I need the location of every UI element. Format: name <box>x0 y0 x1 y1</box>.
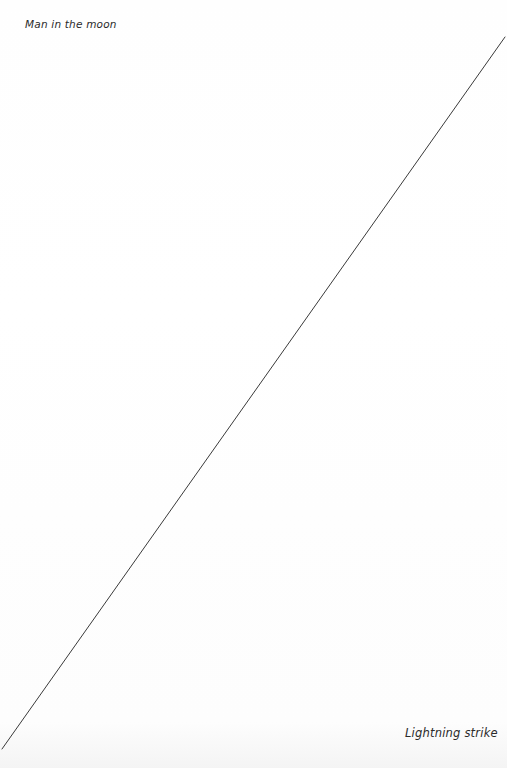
label-lightning-strike: Lightning strike <box>405 726 498 740</box>
label-man-in-the-moon: Man in the moon <box>25 18 117 30</box>
diagonal-line <box>2 37 505 749</box>
diagonal-line-diagram <box>0 0 507 768</box>
canvas: Man in the moon Lightning strike <box>0 0 507 768</box>
